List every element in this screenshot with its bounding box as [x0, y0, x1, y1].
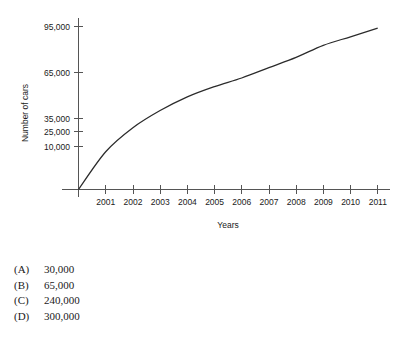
y-tick-label-35000: 35,000: [44, 114, 70, 124]
list-item[interactable]: (D) 300,000: [14, 309, 264, 325]
y-axis-title: Number of cars: [20, 84, 30, 142]
x-tick-label-2005: 2005: [205, 197, 224, 207]
x-tick-label-2009: 2009: [314, 197, 333, 207]
choice-value: 30,000: [44, 262, 264, 278]
choice-letter: (B): [14, 278, 44, 294]
x-tick-label-2007: 2007: [260, 197, 279, 207]
x-tick-label-2011: 2011: [369, 197, 388, 207]
y-tick-label-10000: 10,000: [44, 142, 70, 152]
choice-value: 240,000: [44, 293, 264, 309]
answer-choices: (A) 30,000 (B) 65,000 (C) 240,000 (D) 30…: [14, 262, 264, 324]
x-tick-label-2010: 2010: [341, 197, 360, 207]
choice-value: 65,000: [44, 278, 264, 294]
x-tick-label-2003: 2003: [151, 197, 170, 207]
choice-value: 300,000: [44, 309, 264, 325]
choice-letter: (D): [14, 309, 44, 325]
y-tick-label-95000: 95,000: [44, 22, 70, 32]
x-tick-label-2006: 2006: [232, 197, 251, 207]
y-tick-label-25000: 25,000: [44, 127, 70, 137]
x-tick-label-2008: 2008: [287, 197, 306, 207]
chart-svg: 95,000 65,000 35,000 25,000 10,000 Numbe…: [0, 0, 402, 250]
x-tick-label-2004: 2004: [178, 197, 197, 207]
x-tick-label-2001: 2001: [96, 197, 115, 207]
list-item[interactable]: (A) 30,000: [14, 262, 264, 278]
list-item[interactable]: (B) 65,000: [14, 278, 264, 294]
list-item[interactable]: (C) 240,000: [14, 293, 264, 309]
y-tick-label-65000: 65,000: [44, 68, 70, 78]
data-series-line: [79, 28, 378, 189]
choice-letter: (A): [14, 262, 44, 278]
x-tick-label-2002: 2002: [124, 197, 143, 207]
choice-letter: (C): [14, 293, 44, 309]
chart-figure: 95,000 65,000 35,000 25,000 10,000 Numbe…: [0, 0, 402, 250]
x-axis-title: Years: [217, 220, 238, 230]
